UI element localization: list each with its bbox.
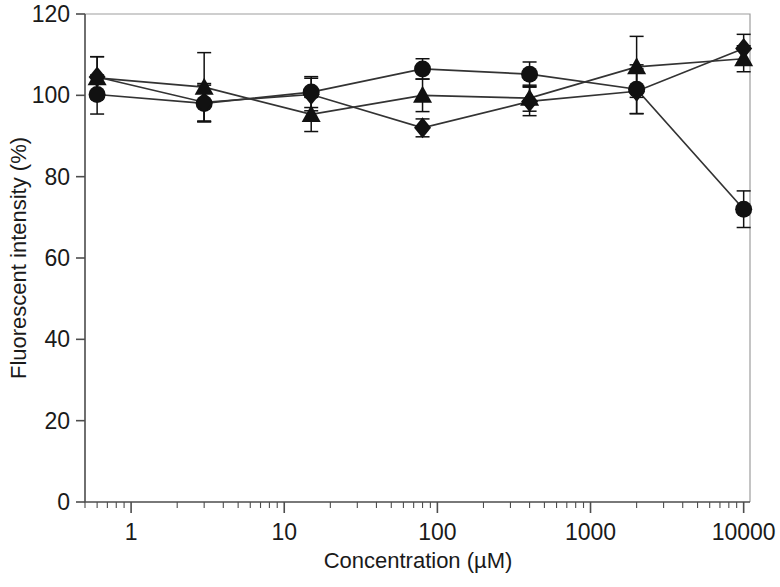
chart-figure: 020406080100120110100100010000 Fluoresce…: [0, 0, 780, 587]
x-tick-label: 100: [418, 519, 456, 545]
y-tick-label: 0: [57, 489, 70, 515]
x-tick-label: 10000: [712, 519, 776, 545]
y-tick-label: 100: [32, 82, 70, 108]
y-tick-label: 60: [44, 245, 70, 271]
data-point-circle: [89, 86, 106, 103]
y-axis-label: Fluorescent intensity (%): [6, 137, 31, 379]
x-axis-label: Concentration (µM): [324, 548, 513, 573]
data-point-circle: [521, 66, 538, 83]
data-point-circle: [735, 201, 752, 218]
data-point-circle: [414, 60, 431, 77]
y-tick-label: 80: [44, 164, 70, 190]
y-tick-label: 40: [44, 326, 70, 352]
chart-background: [0, 0, 780, 587]
x-tick-label: 1000: [565, 519, 616, 545]
y-tick-label: 120: [32, 1, 70, 27]
y-tick-label: 20: [44, 408, 70, 434]
x-tick-label: 10: [271, 519, 297, 545]
x-tick-label: 1: [125, 519, 138, 545]
fluorescence-concentration-line-chart: 020406080100120110100100010000 Fluoresce…: [0, 0, 780, 587]
